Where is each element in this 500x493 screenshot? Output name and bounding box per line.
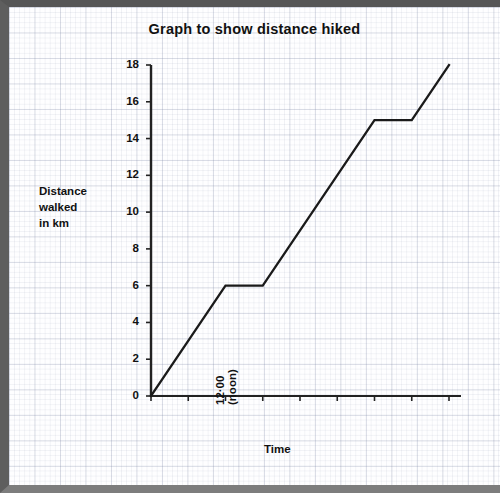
y-axis-tick-label: 18 [113,58,139,70]
y-axis-tick-label: 16 [113,95,139,107]
y-axis-tick-label: 6 [113,279,139,291]
line-chart [9,7,500,493]
graph-page: Graph to show distance hiked Distance wa… [0,0,500,493]
data-line [151,65,449,396]
x-axis-tick-sublabel: (noon) [226,369,238,405]
y-axis-tick-label: 10 [113,205,139,217]
y-axis-tick-label: 14 [113,132,139,144]
y-axis-tick-label: 0 [113,389,139,401]
x-axis-tick-label: 12·00(noon) [215,369,238,405]
y-axis-tick-label: 8 [113,242,139,254]
y-axis-tick-label: 4 [113,315,139,327]
y-axis-tick-label: 2 [113,352,139,364]
y-axis-tick-label: 12 [113,168,139,180]
